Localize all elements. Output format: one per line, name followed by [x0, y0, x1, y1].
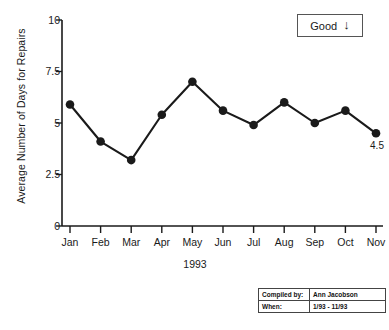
- chart-container: Average Number of Days for Repairs 10 7.…: [0, 0, 389, 330]
- plot-area: [0, 0, 389, 330]
- data-point-oct: [341, 106, 350, 115]
- data-point-mar: [127, 156, 136, 165]
- arrow-down-icon: ↓: [343, 18, 350, 31]
- table-row: Compiled by: Ann Jacobson: [259, 289, 386, 301]
- data-point-apr: [158, 110, 167, 119]
- when-label: When:: [259, 301, 310, 313]
- compiled-by-value: Ann Jacobson: [310, 289, 386, 301]
- good-direction-box: Good ↓: [297, 14, 363, 37]
- data-point-nov: [372, 129, 381, 138]
- data-point-jan: [66, 100, 75, 109]
- table-row: When: 1/93 - 11/93: [259, 301, 386, 313]
- when-value: 1/93 - 11/93: [310, 301, 386, 313]
- y-axis-ticks: [56, 20, 62, 226]
- data-point-may: [188, 78, 197, 87]
- data-point-feb: [96, 137, 105, 146]
- last-point-value-label: 4.5: [362, 140, 389, 151]
- data-point-jun: [219, 106, 228, 115]
- info-table: Compiled by: Ann Jacobson When: 1/93 - 1…: [258, 288, 386, 313]
- compiled-by-label: Compiled by:: [259, 289, 310, 301]
- data-line: [70, 82, 376, 160]
- x-axis-ticks: [70, 226, 376, 233]
- x-tick-label-nov: Nov: [356, 236, 389, 248]
- x-axis-title: 1993: [155, 258, 235, 270]
- data-point-aug: [280, 98, 289, 107]
- data-markers: [66, 78, 381, 165]
- data-point-sep: [311, 119, 320, 128]
- good-label: Good: [310, 20, 337, 32]
- data-point-jul: [249, 121, 258, 130]
